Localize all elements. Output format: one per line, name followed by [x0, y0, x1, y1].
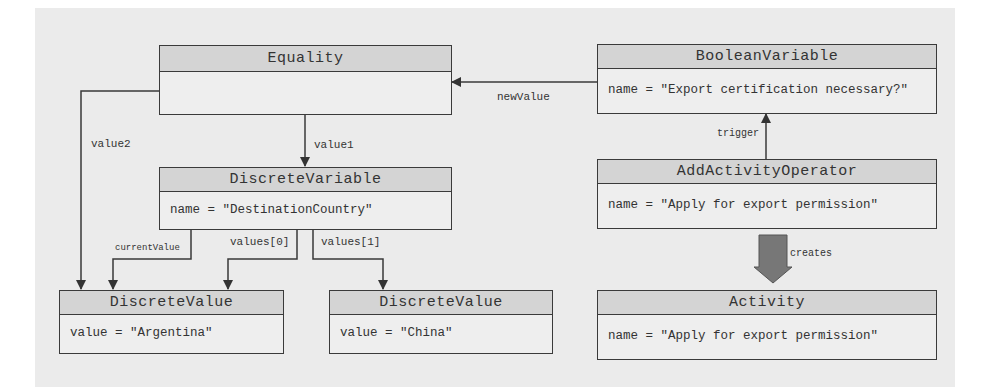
node-equality-title: Equality [160, 46, 451, 72]
node-discrete-value-argentina: DiscreteValue value = "Argentina" [59, 290, 284, 354]
node-discrete-value-china-title: DiscreteValue [330, 291, 552, 315]
node-boolean-variable-attribute: name = "Export certification necessary?" [598, 69, 936, 111]
label-value1: value1 [314, 139, 354, 151]
node-discrete-variable-title: DiscreteVariable [160, 168, 451, 192]
label-value2: value2 [91, 138, 131, 150]
label-newvalue: newValue [497, 91, 550, 103]
label-creates: creates [790, 248, 832, 259]
node-discrete-value-china-attribute: value = "China" [330, 315, 552, 352]
label-values1: values[1] [321, 236, 380, 248]
node-add-activity-operator-title: AddActivityOperator [598, 160, 936, 184]
node-discrete-variable-attribute: name = "DestinationCountry" [160, 192, 451, 228]
creates-arrow-icon [754, 235, 792, 283]
node-activity: Activity name = "Apply for export permis… [597, 290, 937, 360]
label-values0: values[0] [230, 236, 289, 248]
node-activity-attribute: name = "Apply for export permission" [598, 315, 936, 357]
node-boolean-variable-title: BooleanVariable [598, 45, 936, 69]
node-discrete-value-argentina-attribute: value = "Argentina" [60, 315, 283, 352]
node-add-activity-operator-attribute: name = "Apply for export permission" [598, 184, 936, 226]
node-add-activity-operator: AddActivityOperator name = "Apply for ex… [597, 159, 937, 229]
label-currentvalue: currentValue [115, 243, 180, 253]
node-discrete-value-china: DiscreteValue value = "China" [329, 290, 553, 354]
label-trigger: trigger [717, 128, 759, 139]
node-discrete-variable: DiscreteVariable name = "DestinationCoun… [159, 167, 452, 230]
node-discrete-value-argentina-title: DiscreteValue [60, 291, 283, 315]
node-boolean-variable: BooleanVariable name = "Export certifica… [597, 44, 937, 114]
node-activity-title: Activity [598, 291, 936, 315]
edge-currentvalue [113, 229, 191, 289]
node-equality: Equality [159, 45, 452, 115]
